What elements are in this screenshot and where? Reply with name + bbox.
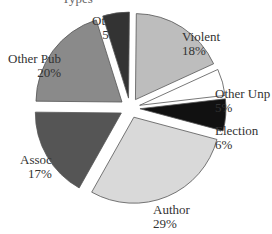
label-violent-pct: 18% bbox=[182, 44, 220, 58]
label-other-unp-name: Other Unp bbox=[215, 87, 270, 101]
label-assoc: Assoc 17% bbox=[20, 153, 52, 181]
label-assoc-name: Assoc bbox=[20, 153, 52, 167]
label-author: Author 29% bbox=[153, 203, 190, 231]
label-other-name: Other bbox=[92, 14, 122, 28]
label-violent: Violent 18% bbox=[182, 30, 220, 58]
label-other-unp-pct: 5% bbox=[215, 101, 270, 115]
label-assoc-pct: 17% bbox=[20, 167, 52, 181]
label-other-pub-name: Other Pub bbox=[8, 52, 61, 66]
label-author-name: Author bbox=[153, 203, 190, 217]
label-other-pct: 5% bbox=[92, 28, 122, 42]
label-other-unp: Other Unp 5% bbox=[215, 87, 270, 115]
label-author-pct: 29% bbox=[153, 217, 190, 231]
pie-chart bbox=[0, 0, 272, 234]
label-election-name: Election bbox=[215, 124, 258, 138]
label-election-pct: 6% bbox=[215, 138, 258, 152]
label-violent-name: Violent bbox=[182, 30, 220, 44]
label-other-pub: Other Pub 20% bbox=[8, 52, 61, 80]
label-election: Election 6% bbox=[215, 124, 258, 152]
chart-title-partial: Types bbox=[62, 0, 93, 7]
label-other-pub-pct: 20% bbox=[8, 66, 61, 80]
label-other: Other 5% bbox=[92, 14, 122, 42]
